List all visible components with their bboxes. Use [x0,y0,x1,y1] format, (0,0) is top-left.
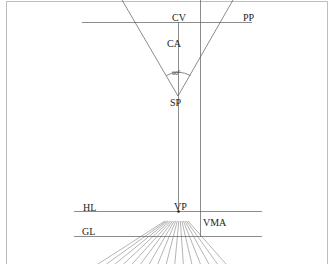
fan-line [124,221,170,264]
cone-of-vision-right [178,0,233,96]
cv-label: CV [172,12,187,23]
gl-label: GL [82,226,95,237]
fan-line [182,221,192,264]
hl-label: HL [83,202,96,213]
ca-label: CA [167,38,182,49]
fan-line [183,221,200,264]
fan-line [149,221,174,264]
sp-label: SP [170,97,182,108]
fan-line [132,221,171,264]
vma-label: VMA [203,217,227,228]
fan-line [180,221,183,264]
fan-line [98,221,165,264]
vp-label: VP [174,201,187,212]
pp-label: PP [243,12,255,23]
fan-line [115,221,168,264]
fan-line [107,221,167,264]
angle-label: 60° [172,70,181,76]
perspective-diagram: CV PP CA 60° SP HL VP VMA GL [0,0,331,264]
